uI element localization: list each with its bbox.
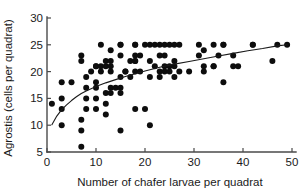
data-point <box>147 58 153 64</box>
data-point <box>59 79 65 85</box>
x-tick-label: 50 <box>286 156 299 168</box>
data-point <box>176 42 182 48</box>
data-point <box>78 117 84 123</box>
data-point <box>118 90 124 96</box>
data-point <box>201 69 207 75</box>
data-point <box>88 69 94 75</box>
data-point <box>137 53 143 59</box>
data-point <box>132 42 138 48</box>
axes-group <box>47 17 296 152</box>
data-point <box>59 122 65 128</box>
data-points-group <box>49 42 290 150</box>
y-tick-label: 30 <box>30 12 43 24</box>
data-point <box>98 69 104 75</box>
data-point <box>59 95 65 101</box>
data-point <box>103 111 109 117</box>
data-point <box>108 63 114 69</box>
data-point <box>186 69 192 75</box>
x-tick-label: 30 <box>188 156 201 168</box>
data-point <box>83 95 89 101</box>
data-point <box>108 47 114 53</box>
x-axis-title: Number of chafer larvae per quadrat <box>77 176 263 188</box>
y-tick-label: 20 <box>30 66 43 78</box>
data-point <box>78 53 84 59</box>
data-point <box>220 79 226 85</box>
data-point <box>142 106 148 112</box>
data-point <box>78 144 84 150</box>
data-point <box>83 74 89 80</box>
data-point <box>235 63 241 69</box>
data-point <box>118 85 124 91</box>
data-point <box>196 53 202 59</box>
data-point <box>147 122 153 128</box>
data-point <box>122 69 128 75</box>
data-point <box>132 106 138 112</box>
x-tick-label: 40 <box>237 156 250 168</box>
data-point <box>167 69 173 75</box>
data-point <box>201 47 207 53</box>
data-point <box>269 58 275 64</box>
data-point <box>201 63 207 69</box>
data-point <box>118 53 124 59</box>
data-point <box>83 106 89 112</box>
data-point <box>162 53 168 59</box>
data-point <box>78 128 84 134</box>
chart-canvas: 51015202530 01020304050 Number of chafer… <box>0 0 303 190</box>
data-point <box>250 42 256 48</box>
y-tick-label: 10 <box>30 119 43 131</box>
data-point <box>78 58 84 64</box>
data-point <box>132 58 138 64</box>
data-point <box>103 101 109 107</box>
data-point <box>157 74 163 80</box>
y-tick-label: 25 <box>30 39 43 51</box>
data-point <box>171 74 177 80</box>
y-tick-label: 15 <box>30 92 43 104</box>
data-point <box>211 63 217 69</box>
data-point <box>176 69 182 75</box>
scatter-plot-figure: 51015202530 01020304050 Number of chafer… <box>0 0 303 190</box>
data-point <box>93 106 99 112</box>
data-point <box>196 42 202 48</box>
data-point <box>69 79 75 85</box>
data-point <box>118 42 124 48</box>
y-axis-ticks: 51015202530 <box>30 12 51 158</box>
data-point <box>93 79 99 85</box>
data-point <box>93 95 99 101</box>
y-axis-title: Agrostis (cells per quadrat) <box>2 19 14 157</box>
fitted-curve <box>52 45 287 125</box>
data-point <box>220 42 226 48</box>
data-point <box>108 58 114 64</box>
x-tick-label: 20 <box>139 156 152 168</box>
data-point <box>98 42 104 48</box>
data-point <box>49 101 55 107</box>
y-tick-label: 5 <box>37 146 43 158</box>
x-tick-label: 0 <box>44 156 50 168</box>
data-point <box>211 42 217 48</box>
data-point <box>147 74 153 80</box>
x-tick-label: 10 <box>90 156 103 168</box>
data-point <box>108 69 114 75</box>
data-point <box>171 58 177 64</box>
x-axis-ticks: 01020304050 <box>44 148 299 168</box>
data-point <box>118 128 124 134</box>
data-point <box>108 90 114 96</box>
data-point <box>274 42 280 48</box>
